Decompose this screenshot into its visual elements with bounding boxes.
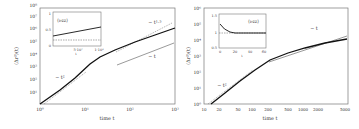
svg-text:10¹: 10¹ bbox=[29, 90, 37, 95]
svg-text:10⁰: 10⁰ bbox=[193, 102, 201, 107]
left-chart-svg: 10¹ 10² 10³ 10⁴ 10⁵ 10⁶ 10⁷ 10⁸ 10⁰ 10¹ … bbox=[0, 0, 180, 129]
right-inset-label: ⟨νzz⟩ bbox=[248, 19, 259, 24]
svg-text:t: t bbox=[75, 52, 77, 56]
right-chart: 10⁰ 10¹ 10² 10³ 10⁴ 10⁵ 10⁶ 10 20 50 100… bbox=[180, 0, 359, 129]
svg-text:60: 60 bbox=[262, 50, 266, 54]
svg-text:10²: 10² bbox=[193, 70, 201, 75]
left-x-ticks: 10⁰ 10¹ 10² 10³ bbox=[36, 107, 179, 112]
svg-text:10⁰: 10⁰ bbox=[36, 107, 44, 112]
left-inset-label: ⟨νzz⟩ bbox=[57, 18, 68, 23]
left-annotation-t2: ~ t² bbox=[55, 74, 65, 80]
svg-text:10¹: 10¹ bbox=[193, 86, 201, 91]
svg-text:10⁷: 10⁷ bbox=[29, 14, 37, 19]
left-x-axis-label: time t bbox=[100, 115, 115, 121]
svg-text:1: 1 bbox=[215, 31, 217, 35]
svg-text:10⁸: 10⁸ bbox=[29, 3, 37, 8]
left-y-ticks: 10¹ 10² 10³ 10⁴ 10⁵ 10⁶ 10⁷ 10⁸ bbox=[29, 3, 37, 95]
svg-text:2000: 2000 bbox=[313, 107, 324, 112]
svg-text:10⁴: 10⁴ bbox=[193, 38, 201, 43]
right-x-ticks: 10 20 50 100 200 500 1000 2000 5000 bbox=[201, 107, 350, 112]
svg-text:10⁵: 10⁵ bbox=[29, 39, 37, 44]
right-y-axis-label: ⟨Δr²⟩(t) bbox=[185, 47, 191, 65]
svg-text:10²: 10² bbox=[126, 107, 134, 112]
svg-text:10²: 10² bbox=[29, 77, 37, 82]
svg-text:1·10³: 1·10³ bbox=[94, 48, 104, 52]
svg-text:5000: 5000 bbox=[340, 107, 351, 112]
svg-text:10⁴: 10⁴ bbox=[29, 52, 37, 57]
svg-text:500: 500 bbox=[284, 107, 292, 112]
svg-text:10³: 10³ bbox=[171, 107, 179, 112]
svg-text:1: 1 bbox=[49, 12, 51, 16]
left-annotation-t: ~ t bbox=[148, 53, 156, 59]
svg-text:t: t bbox=[241, 54, 243, 58]
svg-text:10⁵: 10⁵ bbox=[193, 22, 201, 27]
right-y-ticks: 10⁰ 10¹ 10² 10³ 10⁴ 10⁵ 10⁶ bbox=[193, 6, 201, 107]
svg-text:1000: 1000 bbox=[298, 107, 309, 112]
right-chart-svg: 10⁰ 10¹ 10² 10³ 10⁴ 10⁵ 10⁶ 10 20 50 100… bbox=[180, 0, 359, 129]
right-inset: ⟨νzz⟩ 0.5 1 1.5 0 20 40 60 t bbox=[211, 14, 266, 58]
left-chart: 10¹ 10² 10³ 10⁴ 10⁵ 10⁶ 10⁷ 10⁸ 10⁰ 10¹ … bbox=[0, 0, 180, 129]
left-y-axis-label: ⟨Δr²⟩(t) bbox=[13, 47, 19, 65]
svg-text:0.5: 0.5 bbox=[211, 46, 217, 50]
right-t-guide bbox=[269, 36, 347, 62]
svg-text:20: 20 bbox=[216, 107, 222, 112]
svg-text:10⁶: 10⁶ bbox=[193, 6, 201, 11]
left-t15-guide bbox=[116, 23, 172, 52]
left-t2-guide bbox=[44, 72, 86, 104]
svg-text:10³: 10³ bbox=[29, 64, 37, 69]
left-annotation-t15: ~ t¹·⁵ bbox=[148, 19, 161, 25]
right-msd-curve bbox=[211, 39, 347, 104]
svg-text:50: 50 bbox=[235, 107, 241, 112]
svg-text:10³: 10³ bbox=[193, 54, 201, 59]
svg-text:0: 0 bbox=[219, 50, 221, 54]
svg-text:100: 100 bbox=[248, 107, 256, 112]
right-t2-guide bbox=[208, 70, 253, 104]
svg-text:200: 200 bbox=[264, 107, 272, 112]
svg-text:0.5: 0.5 bbox=[45, 28, 51, 32]
svg-text:10: 10 bbox=[201, 107, 207, 112]
svg-text:40: 40 bbox=[248, 50, 252, 54]
right-x-axis-label: time t bbox=[263, 115, 278, 121]
svg-text:0: 0 bbox=[49, 44, 51, 48]
svg-text:10⁶: 10⁶ bbox=[29, 26, 37, 31]
svg-text:1.5: 1.5 bbox=[211, 14, 217, 18]
right-annotation-t2: ~ t² bbox=[217, 82, 227, 88]
svg-text:20: 20 bbox=[233, 50, 237, 54]
right-annotation-t: ~ t bbox=[310, 25, 318, 31]
left-inset: ⟨νzz⟩ 0 0.5 1 5·10² 1·10³ t bbox=[45, 12, 104, 56]
svg-text:10¹: 10¹ bbox=[81, 107, 89, 112]
